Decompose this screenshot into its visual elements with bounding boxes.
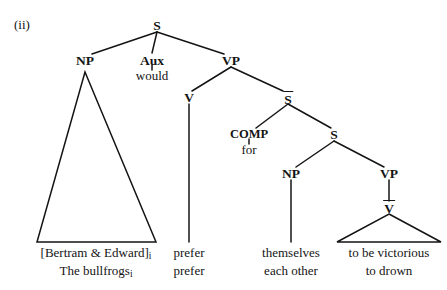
edge-s-to-np (92, 32, 157, 54)
node-s-bar: S (284, 92, 292, 107)
node-np-embedded: NP (282, 167, 300, 181)
terminal-embedded-np-line1: themselves (262, 246, 320, 259)
edge-sbar-to-comp (256, 104, 288, 128)
syntax-tree-figure: (ii) S NP Aux would VP V S COMP for S NP… (0, 0, 447, 290)
terminal-subject-line1: [Bertram & Edward]i (41, 246, 152, 259)
edge-sbar-to-s (288, 104, 331, 128)
figure-enumerator: (ii) (14, 18, 30, 31)
node-v-matrix: V (184, 91, 194, 105)
node-aux: Aux (140, 54, 164, 68)
terminal-subject-line1-text: [Bertram & Edward] (41, 245, 149, 260)
terminal-embedded-vp-line1: to be victorious (349, 246, 430, 259)
terminal-comp-for: for (241, 143, 256, 156)
node-s-bar-text: S (284, 92, 292, 107)
triangle-np-subject (37, 72, 156, 242)
node-s-root: S (153, 19, 161, 33)
triangle-v-bar (337, 214, 441, 242)
node-v-bar: V (384, 201, 394, 216)
node-v-bar-text: V (384, 201, 394, 216)
edge-s-to-vp (157, 32, 224, 54)
edge-s-to-np-embedded (296, 141, 334, 167)
node-s-embedded: S (330, 128, 338, 142)
terminal-verb-line1: prefer (173, 246, 204, 259)
terminal-verb-line2: prefer (173, 264, 204, 277)
node-comp: COMP (230, 128, 268, 141)
node-np-subject: NP (76, 54, 94, 68)
node-vp-matrix: VP (222, 54, 240, 68)
terminal-aux-would: would (136, 69, 169, 82)
edge-vp-to-sbar (231, 67, 283, 91)
node-vp-embedded: VP (380, 167, 398, 181)
terminal-subject-line2-index: i (130, 269, 133, 279)
terminal-subject-line2: The bullfrogsi (59, 264, 132, 277)
edge-s-to-aux (152, 32, 157, 53)
terminal-embedded-vp-line2: to drown (366, 264, 413, 277)
terminal-subject-line2-text: The bullfrogs (59, 263, 129, 278)
terminal-subject-line1-index: i (149, 251, 152, 261)
edge-s-to-vp-embedded (334, 141, 384, 167)
edge-vp-to-v (192, 67, 231, 91)
terminal-embedded-np-line2: each other (264, 264, 318, 277)
